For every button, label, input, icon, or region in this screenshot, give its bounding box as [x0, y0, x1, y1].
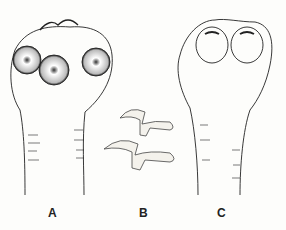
figure-drawing	[0, 0, 286, 230]
panel-label-a: A	[48, 206, 57, 220]
sucker-left	[13, 46, 41, 74]
panel-c-scolex	[178, 19, 272, 195]
panel-a-scolex	[11, 20, 112, 195]
panel-label-b: B	[139, 206, 148, 220]
panel-b-hooks	[104, 110, 174, 170]
panel-label-c: C	[217, 206, 226, 220]
sucker-right	[82, 48, 110, 76]
sucker-center	[39, 55, 69, 85]
